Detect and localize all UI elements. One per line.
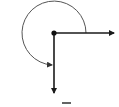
vertex-point xyxy=(51,30,56,35)
angle-diagram xyxy=(0,0,119,107)
